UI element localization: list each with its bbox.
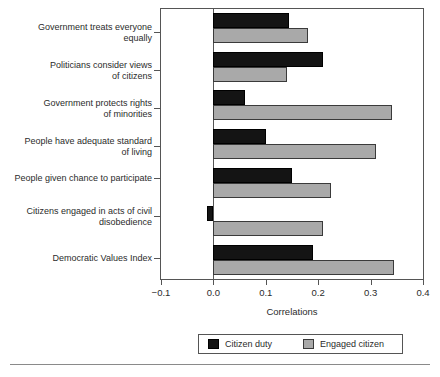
bar-citizen-duty	[207, 206, 214, 221]
x-axis-tick-label: 0.0	[193, 287, 233, 298]
x-axis-tick	[371, 280, 372, 285]
bars-layer	[161, 9, 423, 279]
footer-divider	[10, 364, 430, 365]
category-axis: Government treats everyone equally Polit…	[0, 8, 152, 280]
x-axis-tick	[318, 280, 319, 285]
x-axis-tick-label: 0.4	[403, 287, 440, 298]
x-axis-tick	[266, 280, 267, 285]
x-axis-tick	[161, 280, 162, 285]
bar-citizen-duty	[213, 129, 265, 144]
bar-engaged-citizen	[213, 105, 391, 120]
legend-swatch-icon	[303, 339, 314, 349]
bar-citizen-duty	[213, 52, 323, 67]
x-axis-tick-label: −0.1	[141, 287, 181, 298]
x-axis-tick	[213, 280, 214, 285]
bar-engaged-citizen	[213, 221, 323, 236]
legend-entry-engaged-citizen: Engaged citizen	[303, 335, 384, 353]
x-axis-title: Correlations	[160, 306, 424, 317]
bar-engaged-citizen	[213, 260, 394, 275]
legend-label: Engaged citizen	[320, 339, 384, 349]
x-axis-tick-label: 0.2	[298, 287, 338, 298]
legend-entry-citizen-duty: Citizen duty	[208, 335, 272, 353]
chart-figure: Government treats everyone equally Polit…	[0, 0, 440, 377]
bar-citizen-duty	[213, 168, 292, 183]
category-label: People have adequate standard of living	[0, 136, 152, 158]
chart-legend: Citizen duty Engaged citizen	[198, 334, 403, 354]
bar-engaged-citizen	[213, 144, 375, 159]
category-label: Government treats everyone equally	[0, 22, 152, 44]
bar-engaged-citizen	[213, 183, 331, 198]
bar-citizen-duty	[213, 245, 313, 260]
legend-label: Citizen duty	[225, 339, 272, 349]
category-label: Citizens engaged in acts of civil disobe…	[0, 206, 152, 228]
legend-swatch-icon	[208, 339, 219, 349]
bar-engaged-citizen	[213, 67, 286, 82]
category-label: Politicians consider views of citizens	[0, 60, 152, 82]
category-label: Democratic Values Index	[0, 253, 152, 264]
bar-citizen-duty	[213, 13, 289, 28]
x-axis-ticks	[160, 280, 424, 286]
x-axis-tick-label: 0.1	[246, 287, 286, 298]
x-axis-tick-label: 0.3	[351, 287, 391, 298]
category-label: People given chance to participate	[0, 173, 152, 184]
bar-citizen-duty	[213, 90, 244, 105]
bar-engaged-citizen	[213, 28, 307, 43]
x-axis-tick	[423, 280, 424, 285]
category-label: Government protects rights of minorities	[0, 98, 152, 120]
